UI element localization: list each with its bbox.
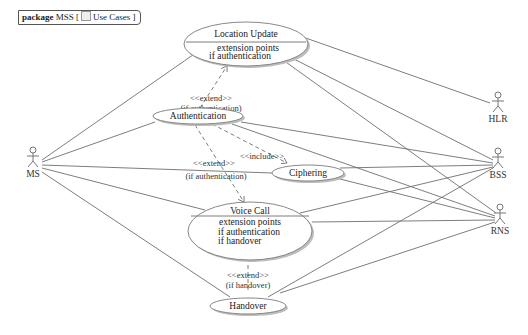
assoc-ms-authentication[interactable] <box>42 122 155 162</box>
use-case-name: Handover <box>229 301 267 311</box>
actor-hlr[interactable]: HLR <box>489 92 509 124</box>
assoc-vc-rns[interactable] <box>312 220 495 222</box>
actor-head-icon <box>30 147 36 153</box>
use-case-voice-call[interactable]: Voice Call extension points if authentic… <box>188 202 314 262</box>
use-case-name: Voice Call <box>230 206 270 216</box>
label-extend-auth-vc-cond: (if authentication) <box>185 171 246 181</box>
assoc-ciph-bss[interactable] <box>340 165 493 168</box>
use-case-ciphering[interactable]: Ciphering <box>272 165 346 183</box>
use-case-name: Authentication <box>170 111 227 121</box>
actor-name: RNS <box>491 226 509 236</box>
assoc-lu-bss[interactable] <box>290 57 493 160</box>
label-extend-handover-vc: <<extend>> <box>227 270 269 280</box>
actor-name: BSS <box>490 170 507 180</box>
assoc-lu-rns[interactable] <box>283 60 496 213</box>
assoc-ms-voice-call[interactable] <box>42 168 205 210</box>
label-extend-auth-vc: <<extend>> <box>193 158 235 168</box>
extension-point: if handover <box>218 236 262 246</box>
label-extend-auth-lu: <<extend>> <box>190 93 232 103</box>
use-case-handover[interactable]: Handover <box>210 298 288 316</box>
actor-head-icon <box>495 92 501 98</box>
actor-bss[interactable]: BSS <box>490 148 507 180</box>
extension-points-header: extension points <box>219 217 281 227</box>
actor-name: MS <box>26 169 40 179</box>
label-include-auth-ciph: <<include>> <box>240 151 284 161</box>
use-case-location-update[interactable]: Location Update extension points if auth… <box>184 22 310 68</box>
actor-name: HLR <box>489 114 509 124</box>
assoc-auth-rns[interactable] <box>232 124 495 216</box>
use-case-diagram: <<extend>> (if authentication) <<extend>… <box>0 0 528 335</box>
actor-head-icon <box>497 204 503 210</box>
actor-head-icon <box>495 148 501 154</box>
actor-ms[interactable]: MS <box>26 147 40 179</box>
use-case-name: Location Update <box>214 29 278 39</box>
use-case-name: Ciphering <box>289 168 327 178</box>
label-extend-handover-vc-cond: (if handover) <box>226 280 271 290</box>
extension-point: if authentication <box>209 51 271 61</box>
use-case-authentication[interactable]: Authentication <box>153 108 245 126</box>
assoc-ms-location-update[interactable] <box>42 50 200 160</box>
